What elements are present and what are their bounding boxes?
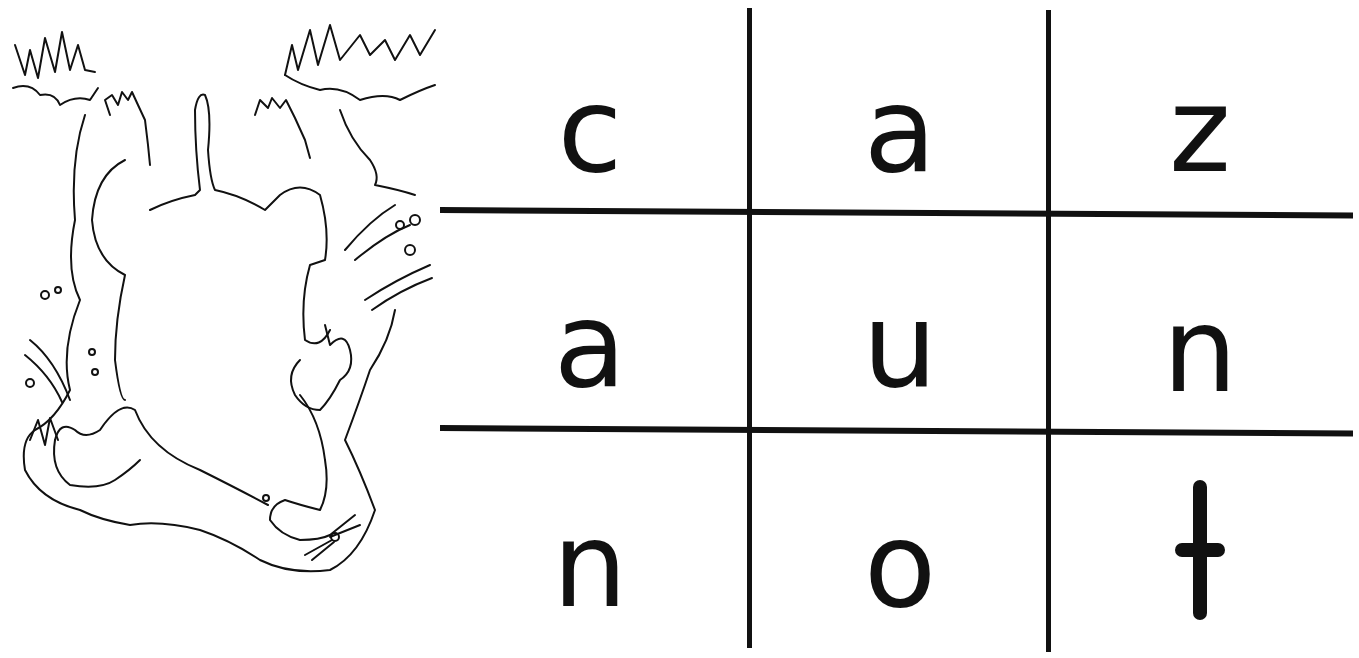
grid-cell-r2c2: u: [800, 286, 1000, 404]
grid-line-vertical-1: [747, 8, 752, 648]
mole-illustration: [0, 0, 440, 658]
grid-line-horizontal-2: [440, 425, 1353, 437]
grid-cell-r1c1: c: [490, 71, 690, 189]
letter-t-crossbar: [1175, 543, 1225, 557]
grid-cell-r3c2: o: [800, 506, 1000, 624]
grid-line-horizontal-1: [440, 207, 1353, 219]
grid-cell-r1c3: z: [1100, 71, 1300, 189]
letter-grid: c a z a u n n o: [440, 0, 1359, 658]
grid-cell-r1c2: a: [800, 71, 1000, 189]
grid-cell-r2c1: a: [490, 286, 690, 404]
grid-cell-r2c3: n: [1100, 291, 1300, 409]
grid-cell-r3c1: n: [490, 506, 690, 624]
grid-line-vertical-2: [1046, 10, 1051, 652]
